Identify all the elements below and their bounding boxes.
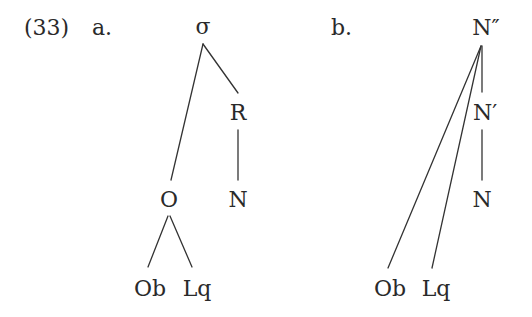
node-n-bar: N′ bbox=[473, 102, 497, 124]
edge-n2-liquid bbox=[432, 46, 481, 268]
node-obstruent-b: Ob bbox=[374, 278, 406, 300]
node-n-head: N bbox=[472, 189, 491, 211]
edge-sigma-rhyme bbox=[203, 44, 238, 93]
tree-b-label: b. bbox=[331, 17, 352, 39]
node-liquid-b: Lq bbox=[422, 278, 451, 300]
edge-onset-obstruent bbox=[148, 216, 168, 267]
node-liquid-a: Lq bbox=[183, 278, 212, 300]
node-obstruent-a: Ob bbox=[134, 278, 166, 300]
syntax-tree-figure: (33) a. σ R N O Ob Lq b. N″ N′ N Ob Lq bbox=[0, 0, 532, 317]
tree-a-label: a. bbox=[92, 17, 112, 39]
edge-sigma-onset bbox=[171, 44, 203, 180]
node-sigma: σ bbox=[195, 16, 210, 38]
example-number: (33) bbox=[24, 17, 69, 39]
node-nucleus-a: N bbox=[228, 189, 247, 211]
node-onset: O bbox=[160, 189, 178, 211]
edge-n2-obstruent bbox=[388, 46, 481, 268]
node-n-double-bar: N″ bbox=[472, 17, 499, 39]
tree-edges bbox=[0, 0, 532, 317]
node-rhyme: R bbox=[230, 102, 247, 124]
edge-onset-liquid bbox=[170, 216, 192, 267]
